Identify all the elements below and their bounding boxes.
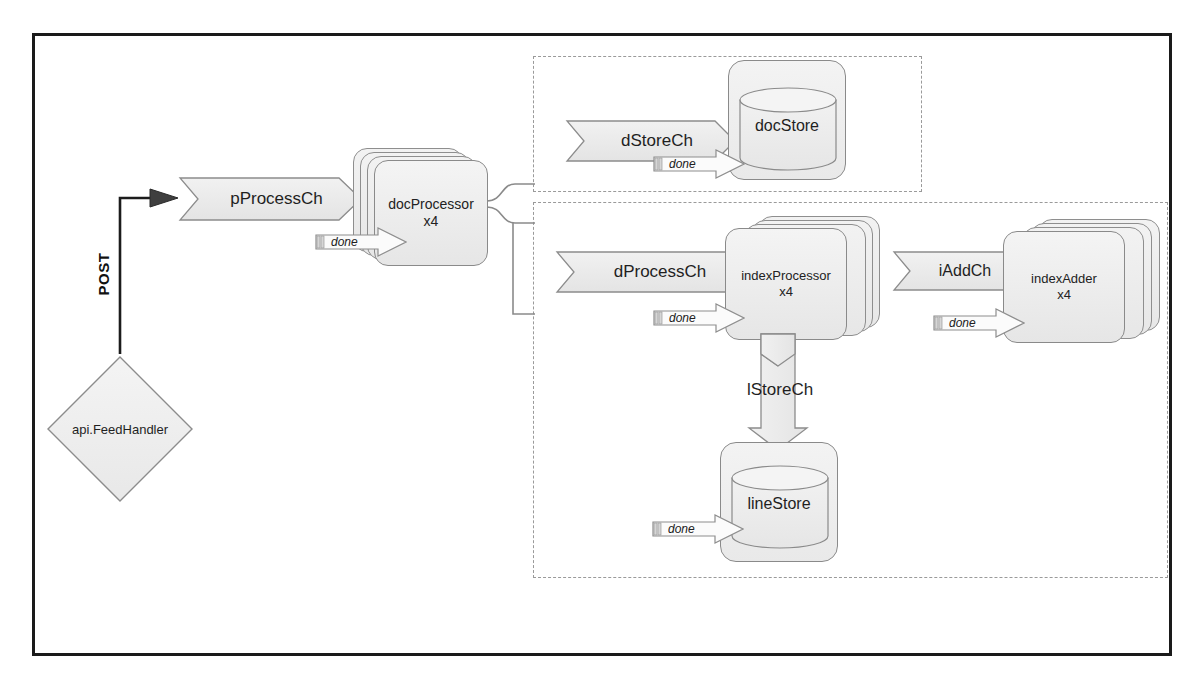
done-arrow-shape <box>652 514 744 544</box>
worker-indexadder-name: indexAdder <box>1031 271 1097 287</box>
done-arrow-shape <box>315 227 407 257</box>
datastore-linestore-label: lineStore <box>721 495 837 513</box>
worker-indexprocessor[interactable]: indexProcessor x4 <box>725 216 885 346</box>
done-arrow-docprocessor[interactable]: done <box>315 227 407 257</box>
done-arrow-indexadder-label: done <box>949 308 976 338</box>
post-label: POST <box>95 244 115 304</box>
worker-indexadder-count: x4 <box>1057 287 1071 303</box>
done-arrow-shape <box>933 308 1025 338</box>
done-arrow-indexprocessor[interactable]: done <box>653 303 745 333</box>
diagram-frame: api.FeedHandler POST pProcessCh docProce <box>32 33 1172 656</box>
worker-indexadder[interactable]: indexAdder x4 <box>1003 219 1165 349</box>
channel-dstorech-label: dStoreCh <box>609 131 693 151</box>
api-feedhandler-label: api.FeedHandler <box>72 422 168 437</box>
done-arrow-docprocessor-label: done <box>331 227 358 257</box>
datastore-docstore-label: docStore <box>729 117 845 135</box>
channel-pprocessch-label: pProcessCh <box>218 189 323 209</box>
channel-dprocessch[interactable]: dProcessCh <box>555 249 753 295</box>
worker-docprocessor-count: x4 <box>424 213 439 230</box>
done-arrow-indexadder[interactable]: done <box>933 308 1025 338</box>
worker-indexprocessor-count: x4 <box>779 284 793 300</box>
worker-indexprocessor-name: indexProcessor <box>741 268 831 284</box>
done-arrow-docstore-label: done <box>669 149 696 179</box>
worker-docprocessor-name: docProcessor <box>388 196 474 213</box>
done-arrow-shape <box>653 303 745 333</box>
channel-lstorech-label: lStoreCh <box>747 380 809 400</box>
done-arrow-linestore[interactable]: done <box>652 514 744 544</box>
channel-dprocessch-label: dProcessCh <box>602 262 707 282</box>
channel-lstorech[interactable]: lStoreCh <box>747 332 809 452</box>
done-arrow-linestore-label: done <box>668 514 695 544</box>
diagram-canvas: api.FeedHandler POST pProcessCh docProce <box>0 0 1202 681</box>
datastore-linestore[interactable]: lineStore <box>720 442 838 562</box>
done-arrow-indexprocessor-label: done <box>669 303 696 333</box>
channel-pprocessch[interactable]: pProcessCh <box>178 175 363 223</box>
done-arrow-docstore[interactable]: done <box>653 149 745 179</box>
datastore-docstore[interactable]: docStore <box>728 60 846 180</box>
api-feedhandler-node[interactable]: api.FeedHandler <box>45 354 195 504</box>
channel-iaddch-label: iAddCh <box>927 262 991 280</box>
done-arrow-shape <box>653 149 745 179</box>
